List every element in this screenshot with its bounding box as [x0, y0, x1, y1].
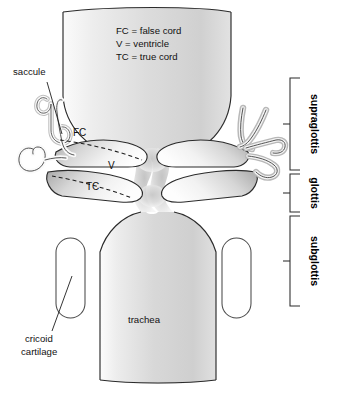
region-bracket-glottis: glottis — [283, 174, 321, 212]
legend-line-true-cord: TC = true cord — [116, 51, 178, 62]
right-true-cord-fold — [162, 170, 258, 202]
label-trachea: trachea — [128, 314, 161, 325]
region-bracket-supraglottis: supraglottis — [283, 78, 321, 170]
region-label-subglottis: subglottis — [309, 236, 321, 286]
right-saccule-branches — [240, 108, 285, 178]
larynx-diagram-figure: FC = false cord V = ventricle TC = true … — [0, 0, 339, 396]
label-saccule: saccule — [13, 66, 46, 77]
left-saccule-branches — [19, 98, 74, 171]
label-cricoid-line1: cricoid — [25, 333, 53, 344]
region-bracket-subglottis: subglottis — [283, 216, 321, 306]
cricoid-cartilage-left — [56, 238, 85, 318]
legend-line-false-cord: FC = false cord — [116, 25, 181, 36]
label-true-cord: TC — [86, 181, 99, 192]
larynx-diagram-svg: FC = false cord V = ventricle TC = true … — [0, 0, 339, 396]
legend-line-ventricle: V = ventricle — [116, 38, 169, 49]
region-label-glottis: glottis — [309, 177, 321, 209]
region-label-supraglottis: supraglottis — [309, 94, 321, 154]
label-cricoid-line2: cartilage — [21, 346, 57, 357]
label-false-cord: FC — [73, 127, 86, 138]
trachea-body — [100, 212, 216, 384]
cricoid-leader-line — [52, 276, 72, 331]
cricoid-cartilage-right — [222, 238, 251, 318]
label-ventricle: V — [108, 160, 115, 171]
